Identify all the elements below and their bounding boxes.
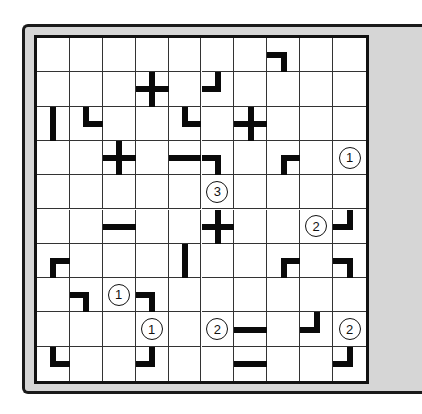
grid-cell-r7-c4[interactable] xyxy=(169,278,202,312)
grid-cell-r1-c7[interactable] xyxy=(267,72,300,106)
grid-cell-r3-c7[interactable] xyxy=(267,141,300,175)
grid-cell-r6-c1[interactable] xyxy=(70,244,103,278)
grid-cell-r0-c9[interactable] xyxy=(333,38,366,72)
grid-cell-r8-c5[interactable]: 2 xyxy=(202,312,235,346)
grid-cell-r8-c0[interactable] xyxy=(37,312,70,346)
grid-cell-r3-c1[interactable] xyxy=(70,141,103,175)
grid-cell-r4-c1[interactable] xyxy=(70,175,103,209)
grid-cell-r5-c2[interactable] xyxy=(103,210,136,244)
grid-cell-r3-c9[interactable]: 1 xyxy=(333,141,366,175)
grid-cell-r5-c4[interactable] xyxy=(169,210,202,244)
grid-cell-r7-c5[interactable] xyxy=(202,278,235,312)
grid-cell-r1-c5[interactable] xyxy=(202,72,235,106)
grid-cell-r8-c4[interactable] xyxy=(169,312,202,346)
grid-cell-r4-c7[interactable] xyxy=(267,175,300,209)
grid-cell-r9-c6[interactable] xyxy=(234,347,267,381)
grid-cell-r6-c5[interactable] xyxy=(202,244,235,278)
grid-cell-r2-c6[interactable] xyxy=(234,107,267,141)
grid-cell-r1-c0[interactable] xyxy=(37,72,70,106)
grid-cell-r0-c0[interactable] xyxy=(37,38,70,72)
grid-cell-r7-c0[interactable] xyxy=(37,278,70,312)
grid-cell-r1-c1[interactable] xyxy=(70,72,103,106)
grid-cell-r9-c9[interactable] xyxy=(333,347,366,381)
grid-cell-r6-c8[interactable] xyxy=(300,244,333,278)
grid-cell-r9-c1[interactable] xyxy=(70,347,103,381)
grid-cell-r5-c9[interactable] xyxy=(333,210,366,244)
grid-cell-r8-c8[interactable] xyxy=(300,312,333,346)
grid-cell-r6-c7[interactable] xyxy=(267,244,300,278)
grid-cell-r9-c2[interactable] xyxy=(103,347,136,381)
grid-cell-r7-c9[interactable] xyxy=(333,278,366,312)
grid-cell-r9-c5[interactable] xyxy=(202,347,235,381)
grid-cell-r8-c3[interactable]: 1 xyxy=(136,312,169,346)
grid-cell-r5-c5[interactable] xyxy=(202,210,235,244)
grid-cell-r4-c9[interactable] xyxy=(333,175,366,209)
grid-cell-r7-c7[interactable] xyxy=(267,278,300,312)
grid-cell-r6-c4[interactable] xyxy=(169,244,202,278)
grid-cell-r6-c3[interactable] xyxy=(136,244,169,278)
grid-cell-r3-c4[interactable] xyxy=(169,141,202,175)
grid-cell-r7-c2[interactable]: 1 xyxy=(103,278,136,312)
grid-cell-r6-c6[interactable] xyxy=(234,244,267,278)
grid-cell-r1-c4[interactable] xyxy=(169,72,202,106)
grid-cell-r2-c2[interactable] xyxy=(103,107,136,141)
grid-cell-r0-c2[interactable] xyxy=(103,38,136,72)
grid-cell-r3-c6[interactable] xyxy=(234,141,267,175)
grid-cell-r4-c0[interactable] xyxy=(37,175,70,209)
grid-cell-r2-c4[interactable] xyxy=(169,107,202,141)
grid-cell-r9-c7[interactable] xyxy=(267,347,300,381)
grid-cell-r2-c8[interactable] xyxy=(300,107,333,141)
grid-cell-r0-c6[interactable] xyxy=(234,38,267,72)
grid-cell-r7-c8[interactable] xyxy=(300,278,333,312)
grid-cell-r6-c9[interactable] xyxy=(333,244,366,278)
grid-cell-r0-c8[interactable] xyxy=(300,38,333,72)
grid-cell-r0-c4[interactable] xyxy=(169,38,202,72)
grid-cell-r3-c0[interactable] xyxy=(37,141,70,175)
grid-cell-r4-c3[interactable] xyxy=(136,175,169,209)
grid-cell-r2-c5[interactable] xyxy=(202,107,235,141)
grid-cell-r7-c6[interactable] xyxy=(234,278,267,312)
grid-cell-r2-c9[interactable] xyxy=(333,107,366,141)
grid-cell-r4-c4[interactable] xyxy=(169,175,202,209)
grid-cell-r0-c3[interactable] xyxy=(136,38,169,72)
grid-cell-r9-c3[interactable] xyxy=(136,347,169,381)
grid-cell-r0-c1[interactable] xyxy=(70,38,103,72)
grid-cell-r5-c3[interactable] xyxy=(136,210,169,244)
grid-cell-r7-c3[interactable] xyxy=(136,278,169,312)
grid-cell-r1-c3[interactable] xyxy=(136,72,169,106)
grid-cell-r3-c8[interactable] xyxy=(300,141,333,175)
grid-cell-r8-c9[interactable]: 2 xyxy=(333,312,366,346)
grid-cell-r4-c5[interactable]: 3 xyxy=(202,175,235,209)
grid-cell-r2-c0[interactable] xyxy=(37,107,70,141)
grid-cell-r4-c8[interactable] xyxy=(300,175,333,209)
grid-cell-r1-c6[interactable] xyxy=(234,72,267,106)
grid-cell-r8-c6[interactable] xyxy=(234,312,267,346)
grid-cell-r5-c1[interactable] xyxy=(70,210,103,244)
grid-cell-r9-c8[interactable] xyxy=(300,347,333,381)
grid-cell-r7-c1[interactable] xyxy=(70,278,103,312)
grid-cell-r4-c2[interactable] xyxy=(103,175,136,209)
grid-cell-r6-c2[interactable] xyxy=(103,244,136,278)
grid-cell-r9-c4[interactable] xyxy=(169,347,202,381)
grid-cell-r5-c7[interactable] xyxy=(267,210,300,244)
grid-cell-r3-c2[interactable] xyxy=(103,141,136,175)
grid-cell-r3-c3[interactable] xyxy=(136,141,169,175)
grid-cell-r1-c2[interactable] xyxy=(103,72,136,106)
grid-cell-r8-c1[interactable] xyxy=(70,312,103,346)
grid-cell-r8-c2[interactable] xyxy=(103,312,136,346)
grid-cell-r1-c8[interactable] xyxy=(300,72,333,106)
grid-cell-r9-c0[interactable] xyxy=(37,347,70,381)
grid-cell-r2-c3[interactable] xyxy=(136,107,169,141)
grid-cell-r5-c6[interactable] xyxy=(234,210,267,244)
grid-cell-r5-c8[interactable]: 2 xyxy=(300,210,333,244)
grid-cell-r1-c9[interactable] xyxy=(333,72,366,106)
grid-cell-r0-c5[interactable] xyxy=(202,38,235,72)
grid-cell-r2-c7[interactable] xyxy=(267,107,300,141)
grid-cell-r5-c0[interactable] xyxy=(37,210,70,244)
grid-cell-r2-c1[interactable] xyxy=(70,107,103,141)
grid-cell-r6-c0[interactable] xyxy=(37,244,70,278)
grid-cell-r3-c5[interactable] xyxy=(202,141,235,175)
grid-cell-r4-c6[interactable] xyxy=(234,175,267,209)
grid-cell-r8-c7[interactable] xyxy=(267,312,300,346)
grid-cell-r0-c7[interactable] xyxy=(267,38,300,72)
